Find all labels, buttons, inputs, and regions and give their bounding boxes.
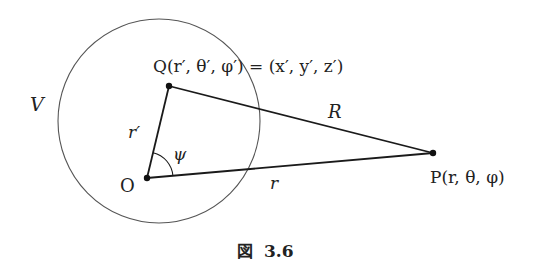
segment-op-label: r (270, 173, 279, 193)
point-q (166, 83, 172, 89)
point-o (144, 175, 150, 181)
caption-number: 3.6 (264, 241, 294, 261)
point-p-label: P(r, θ, φ) (430, 167, 505, 187)
angle-psi-label: ψ (173, 144, 187, 164)
caption-prefix: 図 (237, 242, 253, 261)
region-v-circle (58, 19, 260, 223)
point-q-label: Q(r′, θ′, φ′) = (x′, y′, z′) (153, 56, 343, 76)
segment-op (147, 153, 433, 178)
segment-qp-label: R (327, 101, 342, 122)
point-o-label: O (120, 175, 135, 196)
region-v-label: V (30, 93, 46, 115)
angle-psi-arc (153, 153, 173, 176)
point-p (430, 150, 436, 156)
segment-oq (147, 86, 169, 178)
segment-oq-label: r′ (128, 122, 140, 142)
figure-canvas: V Q(r′, θ′, φ′) = (x′, y′, z′) r′ ψ O R … (0, 0, 539, 274)
segment-qp (169, 86, 433, 153)
